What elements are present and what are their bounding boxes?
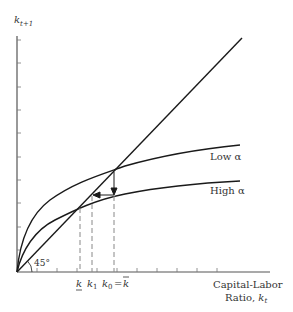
angle-label: 45° bbox=[34, 258, 50, 268]
x-markers: k k1 k0 = k bbox=[76, 277, 129, 291]
low-alpha-label: Low α bbox=[210, 151, 241, 162]
x-axis-label-line1: Capital-Labor bbox=[213, 279, 283, 290]
high-alpha-curve bbox=[17, 181, 240, 272]
45-degree-line bbox=[17, 38, 242, 272]
angle-arc bbox=[28, 261, 33, 272]
left-arrowhead bbox=[93, 192, 100, 198]
k1-label: k1 bbox=[87, 278, 98, 291]
k0-equals: = bbox=[114, 278, 122, 289]
high-alpha-label: High α bbox=[210, 185, 245, 196]
k0-label: k0 bbox=[102, 278, 113, 291]
k-low-label: k bbox=[76, 278, 82, 289]
dashed-guides bbox=[80, 196, 114, 272]
phase-diagram: kt+1 45° Low α High α k k1 k0 = k Capita… bbox=[0, 0, 293, 312]
down-arrowhead bbox=[111, 188, 117, 195]
y-axis-label: kt+1 bbox=[14, 14, 33, 28]
k-bar-label: k bbox=[123, 278, 129, 289]
x-axis-label-line2: Ratio, kt bbox=[225, 292, 267, 305]
low-alpha-curve bbox=[17, 145, 240, 272]
